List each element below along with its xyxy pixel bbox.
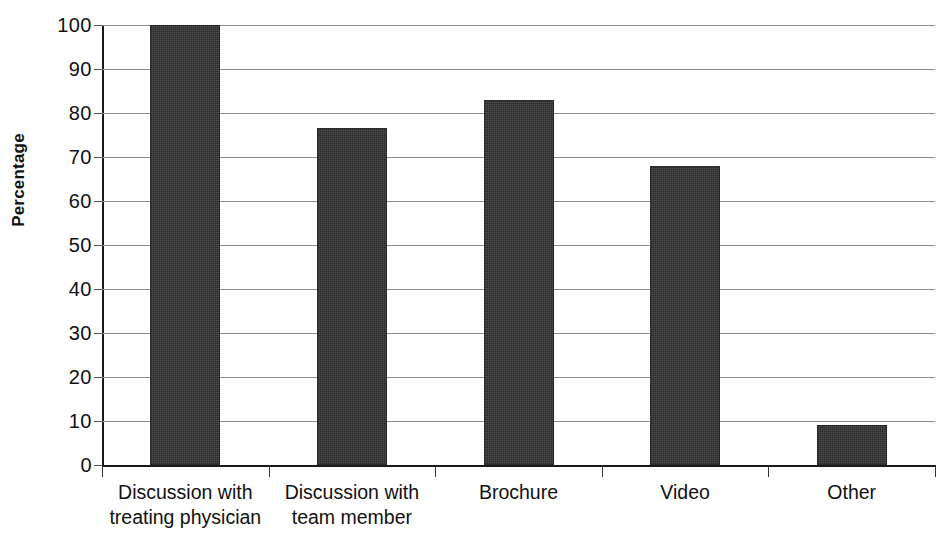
x-label-0: Discussion withtreating physician bbox=[102, 480, 269, 530]
y-tickmark-50 bbox=[94, 245, 102, 246]
bar bbox=[317, 128, 387, 465]
y-tick-label-50: 50 bbox=[0, 234, 92, 257]
x-label-line: Other bbox=[768, 480, 935, 505]
x-label-line: Discussion with bbox=[102, 480, 269, 505]
x-label-line: team member bbox=[269, 505, 436, 530]
y-tick-label-30: 30 bbox=[0, 322, 92, 345]
x-axis-line bbox=[102, 465, 936, 467]
x-label-4: Other bbox=[768, 480, 935, 505]
x-label-line: Discussion with bbox=[269, 480, 436, 505]
y-tickmark-10 bbox=[94, 421, 102, 422]
y-tickmark-20 bbox=[94, 377, 102, 378]
x-tickmark-0 bbox=[102, 466, 103, 477]
y-tickmark-80 bbox=[94, 113, 102, 114]
y-tickmark-30 bbox=[94, 333, 102, 334]
x-label-2: Brochure bbox=[435, 480, 602, 505]
bar bbox=[484, 100, 554, 465]
bar bbox=[817, 425, 887, 465]
x-tickmark-2 bbox=[435, 466, 436, 477]
x-tickmark-1 bbox=[269, 466, 270, 477]
y-tick-label-60: 60 bbox=[0, 190, 92, 213]
y-tick-label-90: 90 bbox=[0, 58, 92, 81]
y-tickmark-0 bbox=[94, 465, 102, 466]
x-tickmark-3 bbox=[602, 466, 603, 477]
y-tick-label-80: 80 bbox=[0, 102, 92, 125]
x-label-line: treating physician bbox=[102, 505, 269, 530]
x-tickmark-4 bbox=[768, 466, 769, 477]
x-tickmark-5 bbox=[935, 466, 936, 477]
y-axis-tick-labels: 1009080706050403020100 bbox=[0, 25, 92, 465]
y-tickmark-90 bbox=[94, 69, 102, 70]
bar bbox=[150, 25, 220, 465]
y-tick-label-0: 0 bbox=[0, 454, 92, 477]
y-tick-label-40: 40 bbox=[0, 278, 92, 301]
plot-area bbox=[102, 25, 935, 465]
gridline-100 bbox=[102, 25, 935, 26]
bar-chart-figure: Percentage 1009080706050403020100 Discus… bbox=[0, 0, 948, 536]
y-tick-label-100: 100 bbox=[0, 14, 92, 37]
x-axis-category-labels: Discussion withtreating physicianDiscuss… bbox=[102, 480, 935, 536]
y-tickmark-40 bbox=[94, 289, 102, 290]
y-tickmark-60 bbox=[94, 201, 102, 202]
x-label-line: Video bbox=[602, 480, 769, 505]
y-tickmark-70 bbox=[94, 157, 102, 158]
x-label-3: Video bbox=[602, 480, 769, 505]
y-tick-label-20: 20 bbox=[0, 366, 92, 389]
y-tick-label-10: 10 bbox=[0, 410, 92, 433]
gridline-90 bbox=[102, 69, 935, 70]
y-tick-label-70: 70 bbox=[0, 146, 92, 169]
x-label-line: Brochure bbox=[435, 480, 602, 505]
bar bbox=[650, 166, 720, 465]
x-label-1: Discussion withteam member bbox=[269, 480, 436, 530]
y-tickmark-100 bbox=[94, 25, 102, 26]
